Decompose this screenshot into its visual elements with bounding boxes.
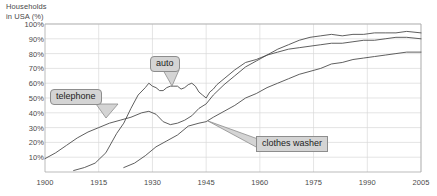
callout-telephone[interactable]: telephone — [50, 89, 102, 105]
x-tick-2005: 2005 — [412, 178, 429, 187]
x-tick-1960: 1960 — [251, 178, 268, 187]
callout-auto[interactable]: auto — [150, 56, 180, 72]
leader-telephone — [96, 104, 118, 118]
chart-container: Households in USA (%) 10%20%30%40%50%60%… — [0, 0, 437, 196]
x-tick-1975: 1975 — [305, 178, 322, 187]
callout-clothes-washer[interactable]: clothes washer — [256, 136, 328, 152]
leader-clothes-washer — [208, 121, 258, 148]
leader-auto — [163, 70, 179, 86]
x-tick-1990: 1990 — [359, 178, 376, 187]
x-tick-1915: 1915 — [90, 178, 107, 187]
x-tick-1930: 1930 — [144, 178, 161, 187]
x-tick-1900: 1900 — [36, 178, 53, 187]
x-tick-1945: 1945 — [198, 178, 215, 187]
callout-leaders — [96, 70, 258, 148]
